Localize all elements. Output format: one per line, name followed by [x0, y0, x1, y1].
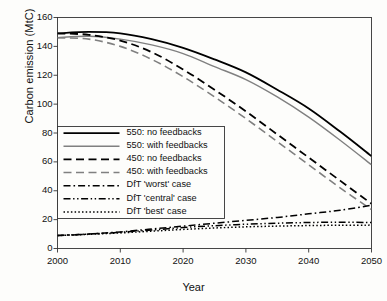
y-tick-label: 20 — [27, 213, 53, 224]
x-tick-label: 2010 — [103, 255, 137, 266]
y-tick-label: 60 — [27, 155, 53, 166]
y-tick-label: 0 — [27, 242, 53, 253]
y-tick-label: 40 — [27, 184, 53, 195]
x-tick-label: 2040 — [292, 255, 326, 266]
legend-item-label: 550: no feedbacks — [127, 127, 202, 137]
y-tick-label: 100 — [27, 98, 53, 109]
legend-item-label: 450: with feedbacks — [127, 166, 208, 176]
x-tick-label: 2020 — [166, 255, 200, 266]
carbon-emission-chart: Carbon emission (MtC) Year 0204060801001… — [0, 0, 387, 301]
legend-item-label: DfT 'worst' case — [127, 179, 192, 189]
y-tick-label: 120 — [27, 69, 53, 80]
x-tick-label: 2000 — [41, 255, 75, 266]
legend-item-label: 550: with feedbacks — [127, 140, 208, 150]
legend-item-label: DfT 'central' case — [127, 193, 197, 203]
legend-item-label: 450: no feedbacks — [127, 153, 202, 163]
y-tick-label: 140 — [27, 40, 53, 51]
legend-item-label: DfT 'best' case — [127, 206, 187, 216]
y-tick-label: 80 — [27, 127, 53, 138]
x-axis-label: Year — [0, 281, 387, 293]
y-tick-label: 160 — [27, 11, 53, 22]
x-tick-label: 2030 — [229, 255, 263, 266]
x-tick-label: 2050 — [355, 255, 387, 266]
